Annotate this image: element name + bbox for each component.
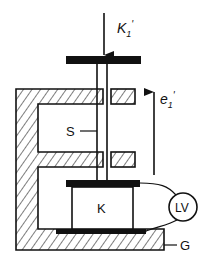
- load-plate: [66, 180, 140, 187]
- middle-guide-right: [111, 152, 135, 167]
- upper-guide-right: [111, 89, 135, 104]
- housing-label: G: [180, 238, 190, 253]
- force-label: K1': [117, 19, 134, 39]
- force-measurement-diagram: K1' e1' S K LV G: [0, 0, 208, 262]
- top-plate: [66, 56, 141, 64]
- direction-label: e1': [160, 90, 176, 110]
- lv-label: LV: [175, 201, 189, 215]
- shaft-label: S: [66, 124, 75, 139]
- body-label: K: [97, 201, 106, 216]
- lv-instrument: LV: [140, 183, 197, 231]
- base-plate: [56, 229, 146, 234]
